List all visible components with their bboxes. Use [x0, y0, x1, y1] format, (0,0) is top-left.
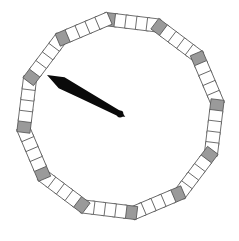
dial-canvas	[0, 0, 239, 241]
polygonal-dial-gauge	[0, 0, 239, 241]
needle-hub	[117, 111, 124, 118]
